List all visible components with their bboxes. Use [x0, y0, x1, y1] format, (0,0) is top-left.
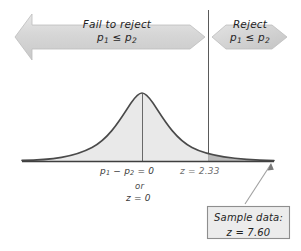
p2-subscript: 2	[265, 36, 270, 45]
sample-data-z-value: z = 7.60	[208, 226, 289, 241]
critical-value-label: z = 2.33	[180, 166, 220, 176]
inequality-operator: ≤	[109, 31, 125, 43]
reject-label-hypothesis: p1 ≤ p2	[214, 31, 286, 45]
sample-data-caption: Sample data:	[208, 211, 289, 226]
fail-to-reject-label-hypothesis: p1 ≤ p2	[62, 31, 172, 45]
reject-label: Reject p1 ≤ p2	[214, 18, 286, 45]
equals-zero: = 0	[134, 166, 154, 176]
fail-to-reject-area	[22, 93, 274, 162]
fail-to-reject-label-line1: Fail to reject	[62, 18, 172, 30]
reject-label-line1: Reject	[214, 18, 286, 30]
mean-axis-or-text: or	[135, 181, 144, 191]
hypothesis-test-figure: Fail to reject p1 ≤ p2 Reject p1 ≤ p2 p1…	[0, 0, 301, 251]
callout-pointer-arrow	[245, 163, 274, 204]
inequality-operator: ≤	[242, 31, 258, 43]
minus-operator: −	[110, 166, 124, 176]
sample-data-callout-text: Sample data: z = 7.60	[208, 211, 289, 240]
p2-subscript: 2	[132, 36, 137, 45]
mean-axis-label: p1 − p2 = 0	[100, 166, 154, 177]
mean-axis-z-label: z = 0	[126, 193, 151, 203]
fail-to-reject-label: Fail to reject p1 ≤ p2	[62, 18, 172, 45]
